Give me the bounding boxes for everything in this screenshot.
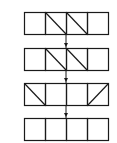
diagonal-line bbox=[67, 49, 88, 71]
cell-diag-down bbox=[25, 84, 46, 106]
down-arrow-icon bbox=[64, 106, 68, 118]
box-row-3 bbox=[25, 84, 109, 106]
cell-diag-down bbox=[67, 49, 88, 71]
cell-empty bbox=[67, 119, 88, 141]
cell-empty bbox=[88, 49, 109, 71]
cell-empty bbox=[46, 119, 67, 141]
diagonal-line bbox=[88, 84, 109, 106]
cell-diag-down bbox=[46, 49, 67, 71]
flow-diagram bbox=[0, 0, 117, 143]
cell-empty bbox=[88, 13, 109, 35]
cell-diag-up bbox=[88, 84, 109, 106]
diagonal-line bbox=[25, 84, 46, 106]
cell-empty bbox=[88, 119, 109, 141]
down-arrow-icon bbox=[64, 35, 68, 48]
box-row-4 bbox=[25, 119, 109, 141]
diagonal-line bbox=[46, 49, 67, 71]
cell-empty bbox=[25, 13, 46, 35]
diagonal-line bbox=[46, 13, 67, 35]
cell-diag-down bbox=[46, 13, 67, 35]
cell-diag-down bbox=[67, 13, 88, 35]
diagonal-line bbox=[67, 13, 88, 35]
cell-empty bbox=[46, 84, 67, 106]
cell-empty bbox=[25, 49, 46, 71]
down-arrow-icon bbox=[64, 71, 68, 83]
box-row-1 bbox=[25, 13, 109, 35]
box-row-2 bbox=[25, 49, 109, 71]
cell-empty bbox=[67, 84, 88, 106]
cell-empty bbox=[25, 119, 46, 141]
